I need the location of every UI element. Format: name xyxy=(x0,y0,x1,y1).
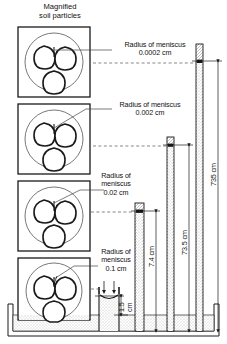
page-title: Magnified soil particles xyxy=(15,2,105,20)
soil-box-1 xyxy=(18,27,112,97)
rise-label-73-5cm: 73.5 cm xyxy=(181,218,189,268)
soil-box-3 xyxy=(18,181,104,251)
rise-label-735cm: 735 cm xyxy=(210,152,218,198)
meniscus-label-2: Radius of meniscus 0.002 cm xyxy=(96,101,204,118)
meniscus-label-3: Radius of meniscus 0.02 cm xyxy=(93,172,139,197)
rise-label-1-5cm: 1.5 cm xyxy=(118,290,136,324)
capillary-rise-diagram: Magnified soil particles Radius of menis… xyxy=(0,0,227,344)
soil-box-4 xyxy=(18,258,98,322)
meniscus-label-1: Radius of meniscus 0.0002 cm xyxy=(96,41,214,58)
rise-label-7-4cm: 7.4 cm xyxy=(148,236,156,278)
meniscus-label-4: Radius of meniscus 0.1 cm xyxy=(93,248,139,273)
